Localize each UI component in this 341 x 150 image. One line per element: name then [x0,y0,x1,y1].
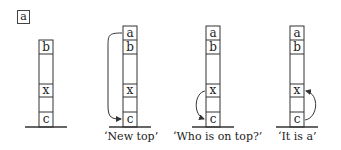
cell-label: a [206,27,220,39]
cell-label: c [123,113,137,125]
cell-label: x [123,84,137,96]
stack-diagram [0,0,341,150]
cell-label: a [290,27,304,39]
cell-label: a [123,27,137,39]
caption-new-top: ‘New top’ [104,130,158,143]
caption-it-is-a: ‘It is a’ [278,130,316,143]
cell-label: x [206,84,220,96]
cell-label: c [39,113,53,125]
cell-label: c [290,113,304,125]
cell-label: x [290,84,304,96]
cell-label: b [206,41,220,53]
caption-who-is-on-top: ‘Who is on top?’ [173,130,262,143]
cell-label: x [39,84,53,96]
cell-label: b [39,41,53,53]
cell-label: b [290,41,304,53]
cell-label: c [206,113,220,125]
cell-label: b [123,41,137,53]
